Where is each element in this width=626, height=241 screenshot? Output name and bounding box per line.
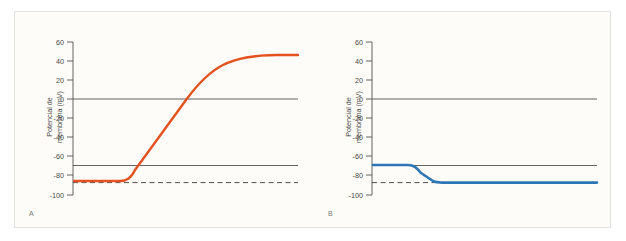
panel-a: Potencial de membrana (mV) <box>15 12 313 227</box>
panel-b-y-ticks <box>366 42 372 195</box>
panel-a-y-ticks <box>67 42 73 195</box>
panel-a-ticklabel-m100: -100 <box>50 191 64 200</box>
panel-b-ticklabel-m20: -20 <box>353 114 363 123</box>
panel-a-ticklabel-20: 20 <box>56 76 64 85</box>
panel-a-ticklabel-40: 40 <box>56 57 64 66</box>
panel-b-ticklabel-20: 20 <box>355 76 363 85</box>
panel-b-trace-hyperpolarization <box>373 165 597 183</box>
panel-b-label: B <box>328 210 333 217</box>
panel-a-ticklabel-0: 0 <box>60 95 64 104</box>
panel-b-ticklabel-m80: -80 <box>353 171 363 180</box>
panel-b-ticklabel-m40: -40 <box>353 133 363 142</box>
panel-a-trace-depolarization <box>74 55 298 181</box>
panel-a-ticklabel-m80: -80 <box>54 171 64 180</box>
panel-b-ticklabel-60: 60 <box>355 38 363 47</box>
panel-a-ticklabel-60: 60 <box>56 38 64 47</box>
panel-a-ticklabel-m20: -20 <box>54 114 64 123</box>
panel-a-ticklabel-m40: -40 <box>54 133 64 142</box>
figure-frame: Potencial de membrana (mV) <box>14 11 611 228</box>
figure-container: Potencial de membrana (mV) <box>0 0 626 241</box>
panel-a-ticklabel-m60: -60 <box>54 152 64 161</box>
panel-b-ticklabel-40: 40 <box>355 57 363 66</box>
panel-b-plot: Potencial de membrana (mV) 60 <box>314 12 612 227</box>
panel-b: Potencial de membrana (mV) 60 <box>314 12 612 227</box>
panel-b-ticklabel-m100: -100 <box>349 191 363 200</box>
panel-b-ticklabel-m60: -60 <box>353 152 363 161</box>
panel-a-label: A <box>29 210 34 217</box>
panel-a-plot: Potencial de membrana (mV) <box>15 12 313 227</box>
panel-b-ticklabel-0: 0 <box>359 95 363 104</box>
